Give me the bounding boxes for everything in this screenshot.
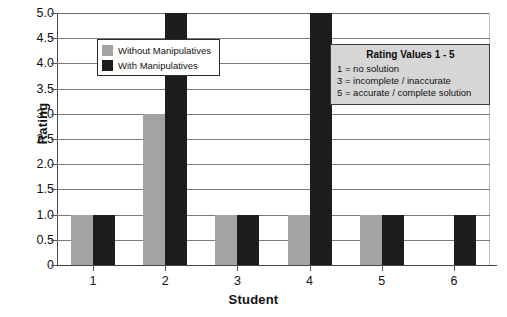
plot-top-border bbox=[57, 13, 490, 14]
annotation-line-1: 1 = no solution bbox=[337, 63, 484, 75]
gridline bbox=[57, 189, 490, 190]
legend: Without Manipulatives With Manipulatives bbox=[97, 39, 220, 76]
rating-values-annotation: Rating Values 1 - 5 1 = no solution 3 = … bbox=[330, 44, 490, 105]
y-tick-label: 4.5 bbox=[18, 31, 54, 45]
gridline bbox=[57, 114, 490, 115]
y-tick-label: 1.5 bbox=[18, 182, 54, 196]
legend-item-with: With Manipulatives bbox=[102, 58, 215, 73]
y-tick-label: 4.0 bbox=[18, 56, 54, 70]
x-tick-mark bbox=[165, 265, 166, 271]
gridline bbox=[57, 164, 490, 165]
bar-without-student-4 bbox=[288, 215, 310, 265]
bar-without-student-2 bbox=[143, 114, 165, 265]
y-tick-label: 2.5 bbox=[18, 132, 54, 146]
x-tick-label-2: 2 bbox=[150, 274, 180, 288]
bar-without-student-5 bbox=[360, 215, 382, 265]
x-tick-mark bbox=[382, 265, 383, 271]
annotation-title: Rating Values 1 - 5 bbox=[337, 49, 484, 60]
bar-without-student-3 bbox=[215, 215, 237, 265]
bar-chart: Rating 5.04.54.03.53.02.52.01.51.00.50 1… bbox=[0, 0, 507, 317]
legend-swatch-without-icon bbox=[102, 45, 113, 56]
x-tick-mark bbox=[93, 265, 94, 271]
legend-swatch-with-icon bbox=[102, 60, 113, 71]
x-tick-mark bbox=[237, 265, 238, 271]
y-tick-label: 0 bbox=[18, 258, 54, 272]
x-tick-mark bbox=[310, 265, 311, 271]
gridline bbox=[57, 215, 490, 216]
x-axis-line bbox=[57, 265, 497, 266]
y-tick-label: 1.0 bbox=[18, 208, 54, 222]
legend-item-without: Without Manipulatives bbox=[102, 43, 215, 58]
legend-label-with: With Manipulatives bbox=[118, 60, 198, 71]
x-tick-label-1: 1 bbox=[78, 274, 108, 288]
y-tick-label: 5.0 bbox=[18, 6, 54, 20]
bar-with-student-3 bbox=[237, 215, 259, 265]
bar-with-student-6 bbox=[454, 215, 476, 265]
y-tick-label: 0.5 bbox=[18, 233, 54, 247]
y-axis-tick-labels: 5.04.54.03.53.02.52.01.51.00.50 bbox=[18, 0, 54, 317]
x-tick-label-5: 5 bbox=[367, 274, 397, 288]
gridline bbox=[57, 139, 490, 140]
gridline bbox=[57, 240, 490, 241]
y-tick-label: 3.5 bbox=[18, 82, 54, 96]
annotation-line-2: 3 = incomplete / inaccurate bbox=[337, 75, 484, 87]
y-tick-label: 3.0 bbox=[18, 107, 54, 121]
legend-label-without: Without Manipulatives bbox=[118, 45, 211, 56]
x-axis-title: Student bbox=[0, 292, 507, 307]
y-tick-label: 2.0 bbox=[18, 157, 54, 171]
bar-without-student-1 bbox=[71, 215, 93, 265]
x-tick-mark bbox=[454, 265, 455, 271]
x-tick-label-4: 4 bbox=[295, 274, 325, 288]
bar-with-student-1 bbox=[93, 215, 115, 265]
bar-with-student-5 bbox=[382, 215, 404, 265]
x-tick-label-3: 3 bbox=[222, 274, 252, 288]
annotation-line-3: 5 = accurate / complete solution bbox=[337, 87, 484, 99]
x-tick-label-6: 6 bbox=[439, 274, 469, 288]
bar-with-student-4 bbox=[310, 13, 332, 265]
